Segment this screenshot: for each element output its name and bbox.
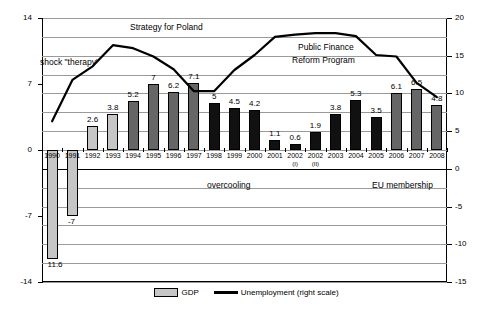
legend-item-gdp: GDP bbox=[154, 288, 198, 297]
gdp-unemployment-chart: 11.6-72.63.85.276.27.154.54.21.10.61.93.… bbox=[0, 0, 493, 311]
y-axis-left-tick-mark bbox=[38, 18, 43, 19]
x-axis-tick-mark bbox=[103, 148, 104, 152]
bar-value-label: 4.8 bbox=[420, 95, 454, 103]
x-axis-tick-mark bbox=[143, 148, 144, 152]
y-axis-right-tick-mark bbox=[447, 131, 452, 132]
legend-swatch-unemployment-icon bbox=[214, 291, 238, 294]
y-axis-right-tick-label: 15 bbox=[455, 52, 481, 60]
bar-value-label: 2.6 bbox=[76, 116, 110, 124]
x-axis-tick-mark bbox=[305, 148, 306, 152]
zero-axis-line bbox=[42, 169, 447, 170]
y-axis-left-tick-mark bbox=[38, 84, 43, 85]
bar-value-label: 1.9 bbox=[298, 122, 332, 130]
gridline bbox=[42, 131, 447, 132]
x-axis-tick-mark bbox=[285, 148, 286, 152]
y-axis-right-tick-label: -15 bbox=[455, 278, 481, 286]
bar-1990 bbox=[47, 150, 58, 259]
gridline bbox=[42, 263, 447, 264]
y-axis-right-tick-label: 10 bbox=[455, 89, 481, 97]
bar-value-label: 0.6 bbox=[278, 134, 312, 142]
annotation-shock-therapy: shock "therapy" bbox=[40, 57, 99, 67]
x-axis-tick-mark bbox=[386, 148, 387, 152]
bar-value-label: 3.8 bbox=[96, 104, 130, 112]
legend-item-unemployment: Unemployment (right scale) bbox=[214, 288, 339, 297]
y-axis-right-tick-label: -5 bbox=[455, 203, 481, 211]
legend-swatch-gdp-icon bbox=[154, 288, 178, 297]
bar-2005 bbox=[371, 117, 382, 150]
x-axis-tick-mark bbox=[123, 148, 124, 152]
annotation-eu-membership: EU membership bbox=[372, 180, 433, 190]
bar-2002-I bbox=[290, 144, 301, 150]
y-axis-left-tick-label: -14 bbox=[6, 278, 32, 286]
x-axis-tick-mark bbox=[164, 148, 165, 152]
bar-value-label: 6.2 bbox=[157, 82, 191, 90]
y-axis-left-tick-label: 7 bbox=[6, 80, 32, 88]
bar-2003 bbox=[330, 114, 341, 150]
x-axis-tick-mark bbox=[407, 148, 408, 152]
x-axis-tick-mark bbox=[427, 148, 428, 152]
bar-value-label: 3.8 bbox=[319, 104, 353, 112]
x-axis-tick-mark bbox=[42, 148, 43, 152]
annotation-reform-program: Reform Program bbox=[292, 55, 355, 65]
y-axis-right-tick-mark bbox=[447, 93, 452, 94]
bar-2006 bbox=[391, 93, 402, 151]
x-axis-tick-mark bbox=[62, 148, 63, 152]
y-axis-right-tick-mark bbox=[447, 282, 452, 283]
gridline bbox=[42, 244, 447, 245]
annotation-strategy-for-poland: Strategy for Poland bbox=[130, 22, 203, 32]
bar-2008 bbox=[431, 105, 442, 150]
legend-label-gdp: GDP bbox=[181, 288, 198, 297]
y-axis-left-tick-label: -7 bbox=[6, 212, 32, 220]
x-axis-tick-mark bbox=[245, 148, 246, 152]
bar-1999 bbox=[229, 108, 240, 150]
y-axis-right-tick-label: 5 bbox=[455, 127, 481, 135]
bar-value-label: 4.2 bbox=[238, 100, 272, 108]
annotation-public-finance: Public Finance bbox=[298, 42, 354, 52]
gridline bbox=[42, 75, 447, 76]
y-axis-right-tick-mark bbox=[447, 244, 452, 245]
x-axis-tick-mark bbox=[447, 148, 448, 152]
bar-value-label: 5.3 bbox=[339, 90, 373, 98]
y-axis-right-tick-label: 0 bbox=[455, 165, 481, 173]
x-axis-tick-mark bbox=[184, 148, 185, 152]
gridline bbox=[42, 56, 447, 57]
y-axis-left-tick-label: 14 bbox=[6, 14, 32, 22]
y-axis-left-tick-mark bbox=[38, 216, 43, 217]
x-axis-tick-label: 2008 bbox=[421, 152, 453, 160]
bar-value-label: 6.5 bbox=[400, 79, 434, 87]
bar-1992 bbox=[87, 126, 98, 151]
x-axis-tick-mark bbox=[326, 148, 327, 152]
gridline bbox=[42, 282, 447, 283]
x-axis-tick-mark bbox=[224, 148, 225, 152]
bar-value-label: -7 bbox=[68, 218, 108, 226]
y-axis-right-tick-mark bbox=[447, 169, 452, 170]
x-axis-tick-mark bbox=[204, 148, 205, 152]
legend-label-unemployment: Unemployment (right scale) bbox=[241, 288, 339, 297]
gridline bbox=[42, 93, 447, 94]
y-axis-right-tick-mark bbox=[447, 207, 452, 208]
bar-1991 bbox=[67, 150, 78, 216]
x-axis-tick-mark bbox=[265, 148, 266, 152]
y-axis-right-tick-label: 20 bbox=[455, 14, 481, 22]
x-axis-tick-mark bbox=[83, 148, 84, 152]
x-axis-tick-mark bbox=[366, 148, 367, 152]
gridline bbox=[42, 18, 447, 19]
bar-value-label: 3.5 bbox=[359, 107, 393, 115]
bar-1996 bbox=[168, 92, 179, 151]
gridline bbox=[42, 207, 447, 208]
legend: GDP Unemployment (right scale) bbox=[0, 288, 493, 299]
y-axis-right-tick-mark bbox=[447, 56, 452, 57]
bar-value-label: 5.2 bbox=[116, 91, 150, 99]
bar-value-label: 11.6 bbox=[48, 261, 88, 269]
y-axis-left-tick-mark bbox=[38, 282, 43, 283]
x-axis-tick-sublabel: (II) bbox=[299, 161, 331, 168]
y-axis-right-tick-label: -10 bbox=[455, 240, 481, 248]
y-axis-right-tick-mark bbox=[447, 18, 452, 19]
y-axis-left-tick-label: 0 bbox=[6, 146, 32, 154]
x-axis-tick-mark bbox=[346, 148, 347, 152]
bar-1998 bbox=[209, 103, 220, 150]
annotation-overcooling: overcooling bbox=[207, 180, 250, 190]
bar-value-label: 7.1 bbox=[177, 73, 211, 81]
gridline bbox=[42, 37, 447, 38]
